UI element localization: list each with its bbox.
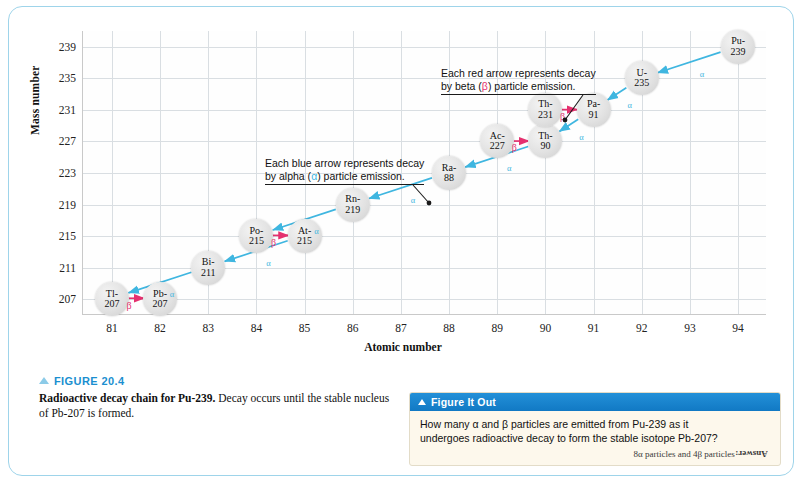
figure-caption: FIGURE 20.4 Radioactive decay chain for … [39, 375, 399, 421]
nuclide-number: 207 [104, 299, 119, 310]
x-axis-tick: 88 [443, 322, 455, 334]
nuclide-node: Rn-219 [336, 188, 370, 222]
beta-arrow-label: β [271, 237, 276, 248]
figure-it-out-answer: Answer: 8α particles and 4β particles [410, 447, 780, 465]
y-axis-tick: 235 [59, 72, 76, 84]
y-axis-tick: 211 [59, 262, 76, 274]
nuclide-node: Ac-227 [480, 124, 514, 158]
beta-callout-line2-pre: by beta ( [441, 80, 482, 92]
decay-chain-plot: Mass number 2072112152192232272312352398… [27, 17, 779, 367]
nuclide-node: Bi-211 [191, 251, 225, 285]
x-axis-tick: 89 [492, 322, 504, 334]
y-axis-tick: 227 [59, 135, 76, 147]
figure-it-out-header: Figure It Out [410, 393, 780, 411]
y-axis-tick: 239 [59, 41, 76, 53]
y-axis-tick: 215 [59, 230, 76, 242]
figure-it-out-question: How many α and β particles are emitted f… [410, 411, 780, 447]
x-axis-tick: 92 [636, 322, 648, 334]
x-axis-tick: 84 [251, 322, 263, 334]
beta-arrow-label: β [126, 300, 131, 311]
nuclide-node: Pa-91 [577, 93, 611, 127]
figure-number: FIGURE 20.4 [54, 375, 124, 387]
x-axis-tick: 85 [299, 322, 311, 334]
question-line-2: undergoes radioactive decay to form the … [420, 432, 718, 444]
alpha-callout: Each blue arrow represents decay by alph… [265, 157, 465, 185]
alpha-arrow-label: α [411, 195, 415, 205]
nuclide-node: Po-215 [239, 219, 273, 253]
figure-panel: Mass number 2072112152192232272312352398… [8, 6, 794, 476]
x-axis-tick: 81 [106, 322, 118, 334]
alpha-arrow-label: α [507, 163, 511, 173]
alpha-arrow-label: α [700, 69, 704, 79]
answer-label: Answer: [736, 449, 769, 459]
alpha-callout-line2-post: ) particle emission. [317, 170, 405, 182]
nuclide-number: 227 [490, 141, 505, 152]
x-axis-title: Atomic number [27, 341, 779, 353]
x-axis-tick: 90 [540, 322, 552, 334]
beta-arrow-label: β [560, 110, 565, 121]
alpha-arrow-label: α [314, 226, 318, 236]
figure-page: Mass number 2072112152192232272312352398… [0, 0, 804, 485]
y-axis-title: Mass number [29, 65, 41, 135]
caption-title: Radioactive decay chain for Pu-239. [39, 392, 215, 404]
y-axis-tick: 219 [59, 199, 76, 211]
y-axis-tick: 231 [59, 104, 76, 116]
nuclide-number: 215 [297, 236, 312, 247]
alpha-callout-line2-pre: by alpha ( [265, 170, 311, 182]
nuclide-number: 239 [731, 47, 746, 58]
alpha-arrow-label: α [170, 289, 174, 299]
nuclide-number: 211 [201, 268, 216, 279]
x-axis-tick: 86 [347, 322, 359, 334]
nuclide-node: Th-231 [528, 93, 562, 127]
alpha-decay-arrow [658, 52, 721, 73]
nuclide-number: 215 [249, 236, 264, 247]
nuclide-node: Tl-207 [95, 282, 129, 316]
question-line-1: How many α and β particles are emitted f… [420, 418, 688, 430]
beta-callout: Each red arrow represents decay by beta … [441, 67, 641, 95]
nuclide-number: 219 [345, 205, 360, 216]
nuclide-node: Pu-239 [721, 30, 755, 64]
beta-callout-line2-post: ) particle emission. [488, 80, 576, 92]
x-axis-tick: 94 [732, 322, 744, 334]
alpha-callout-line1: Each blue arrow represents decay [265, 157, 424, 169]
caption-heading: FIGURE 20.4 [39, 375, 399, 387]
nuclide-number: 91 [589, 110, 599, 121]
triangle-icon [418, 399, 426, 405]
alpha-arrow-label: α [266, 258, 270, 268]
x-axis-tick: 83 [202, 322, 214, 334]
y-axis-tick: 223 [59, 167, 76, 179]
x-axis-tick: 93 [684, 322, 696, 334]
answer-text: 8α particles and 4β particles [634, 449, 735, 459]
x-axis-tick: 91 [588, 322, 600, 334]
x-axis-tick: 82 [154, 322, 166, 334]
alpha-arrow-label: α [627, 100, 631, 110]
nuclide-number: 231 [538, 110, 553, 121]
figure-it-out-title: Figure It Out [431, 396, 496, 408]
nuclide-number: 90 [540, 141, 550, 152]
figure-it-out-box: Figure It Out How many α and β particles… [409, 392, 781, 466]
nuclide-node: Th-90 [528, 124, 562, 158]
alpha-arrow-label: α [579, 132, 583, 142]
nuclide-number: 207 [153, 299, 168, 310]
answer-inverted-text: Answer: 8α particles and 4β particles [634, 449, 768, 459]
beta-callout-line1: Each red arrow represents decay [441, 67, 596, 79]
beta-arrow-label: β [512, 142, 517, 153]
x-axis-tick: 87 [395, 322, 407, 334]
caption-body: Radioactive decay chain for Pu-239. Deca… [39, 391, 399, 421]
y-axis-tick: 207 [59, 293, 76, 305]
triangle-icon [39, 377, 49, 384]
